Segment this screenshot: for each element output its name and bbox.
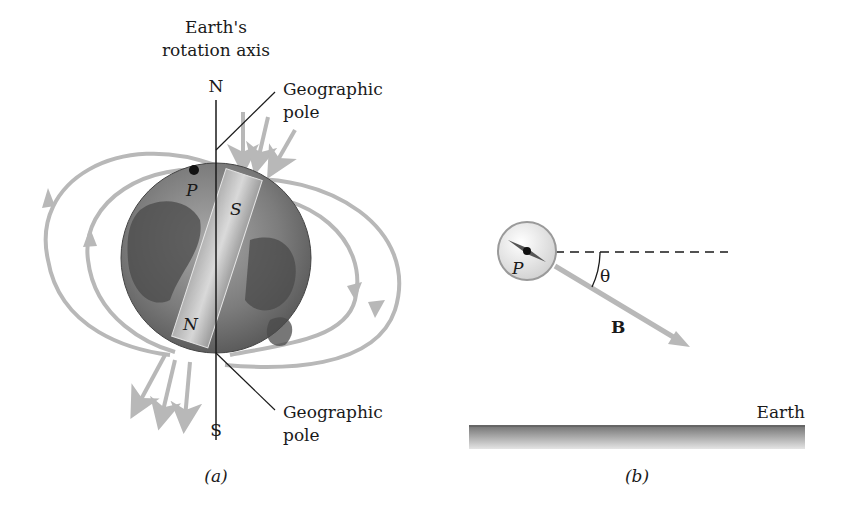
geo-pole-bottom-leader [216, 353, 275, 410]
south-label: S [210, 420, 222, 440]
panel-a: Earth's rotation axis N Geographic pole … [42, 17, 399, 486]
geo-pole-top-line2: pole [283, 102, 320, 122]
caption-a: (a) [204, 466, 227, 486]
point-p-dot [189, 165, 199, 175]
magnet-n-label: N [182, 314, 199, 334]
angle-arc [592, 252, 600, 287]
ground-strip [469, 427, 805, 449]
earth-ground-label: Earth [757, 402, 806, 422]
point-p-label-b: P [511, 258, 524, 278]
figure-canvas: Earth's rotation axis N Geographic pole … [0, 0, 846, 514]
angle-theta-label: θ [600, 266, 610, 286]
geo-pole-bottom-line2: pole [283, 425, 320, 445]
geo-pole-bottom-line1: Geographic [283, 402, 383, 422]
compass-pivot [523, 247, 531, 255]
north-label: N [209, 76, 224, 96]
caption-b: (b) [625, 466, 649, 486]
field-b-label: B [611, 317, 625, 337]
magnet-s-label: S [230, 199, 242, 219]
geo-pole-top-line1: Geographic [283, 79, 383, 99]
point-p-label: P [185, 180, 198, 200]
axis-title-line2: rotation axis [162, 40, 270, 60]
panel-b: P θ B Earth (b) [469, 222, 805, 486]
axis-title-line1: Earth's [185, 17, 247, 37]
